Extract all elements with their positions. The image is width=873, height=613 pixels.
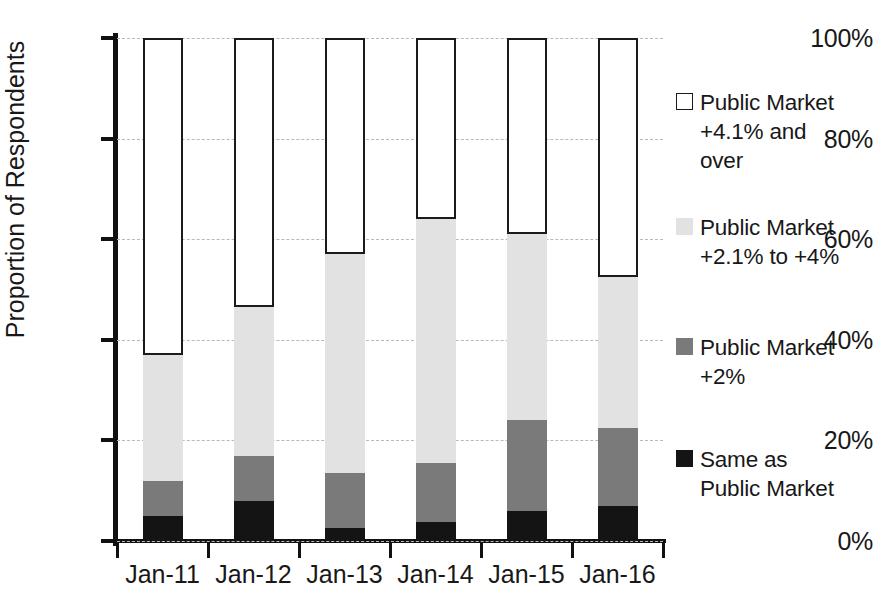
bar-segment[interactable] [507,420,547,511]
bar-segment[interactable] [416,522,456,541]
bar-segment[interactable] [507,38,547,234]
bar-segment[interactable] [143,516,183,541]
bar-group[interactable] [234,38,274,541]
gridline [117,541,663,542]
legend-label: Public Market +2% [700,333,834,391]
bar-segment[interactable] [325,38,365,254]
bar-segment[interactable] [507,511,547,541]
bar-segment[interactable] [143,38,183,355]
bar-segment[interactable] [598,506,638,541]
x-axis-tick [571,543,574,558]
x-axis-tick-label: Jan-12 [208,560,299,589]
gridline [117,139,663,140]
y-axis-tick [101,137,118,141]
bar-segment[interactable] [234,456,274,501]
legend-swatch-icon [676,93,693,110]
plot-area [117,38,663,541]
x-axis-tick-label: Jan-11 [117,560,208,589]
bar-group[interactable] [143,38,183,541]
legend-swatch-icon [676,218,693,235]
bar-segment[interactable] [325,528,365,541]
bar-group[interactable] [598,38,638,541]
x-axis-tick [207,543,210,558]
legend-label: Public Market +2.1% to +4% [700,213,839,271]
gridline [117,340,663,341]
x-axis-tick [389,543,392,558]
legend-item[interactable]: Public Market +2.1% to +4% [676,213,839,271]
bar-group[interactable] [325,38,365,541]
x-axis-tick [116,543,119,558]
bar-segment[interactable] [234,307,274,455]
y-axis-tick [101,237,118,241]
bar-segment[interactable] [416,38,456,219]
y-axis-tick-label: 0% [777,527,873,556]
x-axis-tick [662,543,665,558]
y-axis-tick [101,36,118,40]
bar-segment[interactable] [325,473,365,528]
gridline [117,440,663,441]
legend-swatch-icon [676,338,693,355]
y-axis-tick [101,438,118,442]
x-axis-tick-label: Jan-14 [390,560,481,589]
legend-item[interactable]: Public Market +4.1% and over [676,88,834,175]
legend-label: Same as Public Market [700,445,834,503]
gridline [117,239,663,240]
bar-segment[interactable] [143,481,183,516]
x-axis-tick-label: Jan-13 [299,560,390,589]
y-axis-tick-label: 100% [777,24,873,53]
x-axis-tick-label: Jan-15 [481,560,572,589]
bar-segment[interactable] [234,501,274,541]
y-axis-tick [101,338,118,342]
legend-label: Public Market +4.1% and over [700,88,834,175]
legend-item[interactable]: Same as Public Market [676,445,834,503]
bar-segment[interactable] [325,254,365,473]
bar-segment[interactable] [598,277,638,428]
y-axis-title: Proportion of Respondents [1,0,30,430]
legend-swatch-icon [676,450,693,467]
bar-segment[interactable] [416,219,456,463]
x-axis-tick [480,543,483,558]
x-axis-tick-label: Jan-16 [572,560,663,589]
bar-segment[interactable] [143,355,183,481]
bar-group[interactable] [507,38,547,541]
bar-segment[interactable] [234,38,274,307]
gridline [117,38,663,39]
x-axis-tick [298,543,301,558]
legend-item[interactable]: Public Market +2% [676,333,834,391]
bar-segment[interactable] [598,38,638,277]
bar-group[interactable] [416,38,456,541]
bar-segment[interactable] [416,463,456,522]
bar-segment[interactable] [598,428,638,506]
bar-segment[interactable] [507,234,547,420]
chart-page: Proportion of Respondents 0%20%40%60%80%… [0,0,873,613]
